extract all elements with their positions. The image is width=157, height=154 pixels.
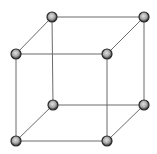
atom-node-front-bottom-left (11, 136, 21, 146)
edge-back-top-left-to-front-top-left (16, 17, 52, 54)
atom-node-back-bottom-left (48, 100, 58, 110)
edge-back-bottom-left-to-front-bottom-left (16, 105, 53, 141)
lattice-edges (16, 17, 144, 141)
cubic-lattice-diagram (0, 0, 157, 154)
edge-back-top-right-to-front-top-right (107, 17, 144, 54)
atom-node-front-top-left (11, 49, 21, 59)
edge-back-bottom-right-to-front-bottom-right (107, 105, 144, 141)
atom-node-front-bottom-right (102, 136, 112, 146)
edge-back-top-left-to-back-bottom-left (52, 17, 53, 105)
atom-node-back-bottom-right (139, 100, 149, 110)
atom-node-back-top-right (139, 12, 149, 22)
atom-node-back-top-left (47, 12, 57, 22)
atom-node-front-top-right (102, 49, 112, 59)
